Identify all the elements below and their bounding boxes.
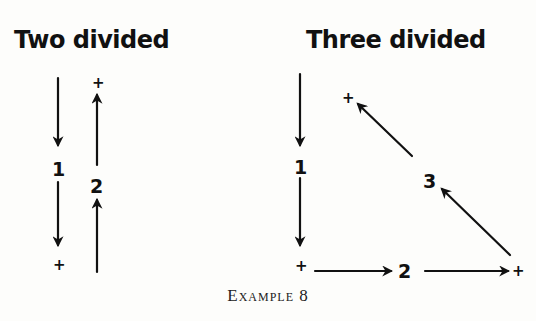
plus-mark: +: [342, 89, 355, 107]
segment-label-2: 2: [398, 260, 411, 282]
plus-mark: +: [53, 256, 66, 274]
figure-title: Three divided: [306, 26, 486, 54]
example-8-diagram: Two divided 1 + + 2 Three divided 1 + 2 …: [0, 0, 536, 321]
segment-label-2: 2: [90, 175, 103, 197]
plus-mark: +: [512, 262, 525, 280]
diagonal-arrow-icon: [442, 189, 510, 255]
figure-title: Two divided: [14, 26, 169, 54]
segment-label-3: 3: [423, 170, 436, 192]
segment-label-1: 1: [52, 158, 65, 180]
plus-mark: +: [295, 257, 308, 275]
figure-caption: Example 8: [0, 286, 536, 306]
plus-mark: +: [92, 74, 105, 92]
figure-two-divided: Two divided 1 + + 2: [14, 26, 169, 274]
diagonal-arrow-icon: [358, 104, 412, 156]
segment-label-1: 1: [294, 156, 307, 178]
figure-three-divided: Three divided 1 + 2 + 3 +: [294, 26, 525, 282]
